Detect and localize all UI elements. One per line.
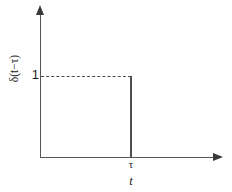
y-axis-tick-label-one: 1 <box>27 67 39 82</box>
y-axis-label: δ(t−τ) <box>8 43 21 95</box>
delta-function-figure: 1 δ(t−τ) τ t <box>0 0 232 192</box>
x-axis-label: t <box>120 174 142 188</box>
arrow-right-icon <box>213 153 223 161</box>
impulse-spike-line <box>130 76 132 157</box>
arrow-up-icon <box>36 5 44 15</box>
unit-reference-dashed-line <box>41 76 131 77</box>
y-axis-line <box>40 14 41 158</box>
x-axis-tick-label-tau: τ <box>120 158 142 171</box>
